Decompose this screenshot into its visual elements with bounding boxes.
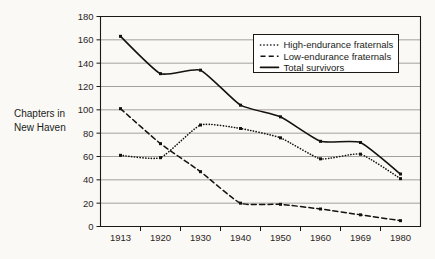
x-tick-label-1920: 1920 [150,232,171,243]
legend-label-2: Total survivors [284,62,345,73]
data-point-1920 [159,72,162,75]
y-tick-label-40: 40 [83,174,94,185]
y-axis-title-line1: Chapters in [14,108,65,119]
data-point-1950 [279,115,282,118]
y-tick-label-160: 160 [78,34,94,45]
data-point-1960 [319,157,322,160]
data-point-1969 [359,141,362,144]
x-tick-label-1950: 1950 [270,232,291,243]
line-chart: 020406080100120140160180 191319201930194… [0,0,435,259]
legend-label-1: Low-endurance fraternals [284,51,392,62]
data-point-1969 [359,213,362,216]
y-tick-label-20: 20 [83,198,94,209]
data-point-1980 [399,219,402,222]
data-point-1930 [199,69,202,72]
data-point-1960 [319,208,322,211]
data-point-1930 [199,170,202,173]
y-tick-label-180: 180 [78,11,94,22]
y-tick-label-100: 100 [78,104,94,115]
x-tick-label-1940: 1940 [230,232,251,243]
chart-legend: High-endurance fraternalsLow-endurance f… [254,35,399,73]
x-tick-label-1980: 1980 [390,232,411,243]
x-tick-label-1960: 1960 [310,232,331,243]
y-axis-title-line2: New Haven [14,122,66,133]
x-tick-label-1930: 1930 [190,232,211,243]
y-tick-label-60: 60 [83,151,94,162]
legend-label-0: High-endurance fraternals [284,39,394,50]
y-tick-label-0: 0 [88,221,93,232]
y-tick-label-140: 140 [78,58,94,69]
x-tick-label-1969: 1969 [350,232,371,243]
chart-container: 020406080100120140160180 191319201930194… [0,0,435,259]
data-point-1969 [359,153,362,156]
data-point-1940 [239,127,242,130]
data-point-1980 [399,177,402,180]
y-tick-label-120: 120 [78,81,94,92]
data-point-1940 [239,104,242,107]
data-point-1913 [119,154,122,157]
data-point-1980 [399,173,402,176]
data-point-1950 [279,136,282,139]
data-point-1960 [319,140,322,143]
y-tick-label-80: 80 [83,128,94,139]
data-point-1913 [119,35,122,38]
x-tick-label-1913: 1913 [110,232,131,243]
data-point-1920 [159,156,162,159]
data-point-1913 [119,107,122,110]
data-point-1950 [279,203,282,206]
data-point-1920 [159,142,162,145]
data-point-1940 [239,202,242,205]
data-point-1930 [199,124,202,127]
